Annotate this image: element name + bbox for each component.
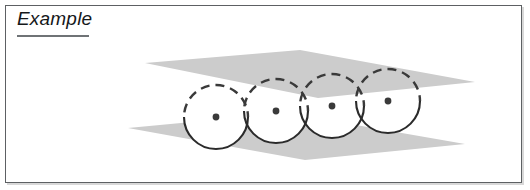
circle-4-center-dot (385, 98, 392, 105)
screenshot-root: Example (0, 0, 530, 190)
circle-1-center-dot (213, 114, 220, 121)
upper-plane (145, 50, 475, 98)
geometry-figure (0, 0, 530, 190)
circle-2-center-dot (273, 108, 280, 115)
circle-3-center-dot (329, 103, 336, 110)
